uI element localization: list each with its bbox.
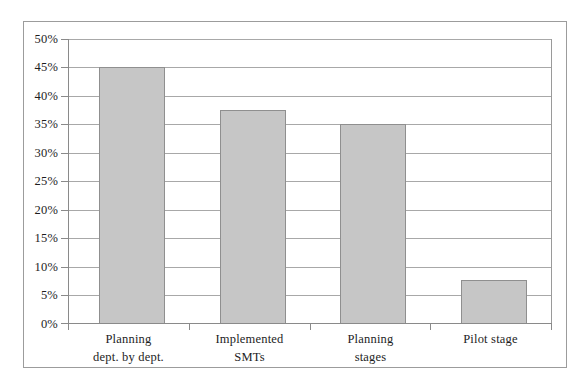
y-axis-tick-mark-0: [61, 323, 68, 324]
category-label-line-2: stages: [310, 348, 431, 366]
y-axis-tick-mark-25: [61, 181, 68, 182]
y-axis-tick-mark-40: [61, 96, 68, 97]
category-label-line-1: Pilot stage: [430, 330, 551, 348]
category-label-line-1: Planning: [310, 330, 431, 348]
x-axis-category-label-implemented-smts: Implemented SMTs: [189, 330, 310, 366]
y-axis-tick-mark-15: [61, 238, 68, 239]
gridline-50: [69, 39, 551, 40]
y-axis-tick-label-15: 15%: [34, 232, 58, 245]
y-axis-tick-mark-45: [61, 67, 68, 68]
y-axis-tick-label-35: 35%: [34, 118, 58, 131]
y-axis-tick-label-30: 30%: [34, 147, 58, 160]
y-axis-tick-label-50: 50%: [34, 33, 58, 46]
bar-chart: 50% 45% 40% 35% 30% 25% 20% 15% 10% 5% 0…: [24, 22, 568, 369]
y-axis-tick-label-40: 40%: [34, 90, 58, 103]
y-axis-tick-mark-35: [61, 124, 68, 125]
y-axis-tick-mark-20: [61, 210, 68, 211]
x-axis-category-label-pilot-stage: Pilot stage: [430, 330, 551, 348]
x-axis-tick-mark-4: [551, 324, 552, 330]
y-axis-tick-label-25: 25%: [34, 175, 58, 188]
figure-frame: 50% 45% 40% 35% 30% 25% 20% 15% 10% 5% 0…: [23, 21, 567, 368]
bar-implemented-smts[interactable]: [220, 110, 286, 324]
y-axis-tick-label-45: 45%: [34, 61, 58, 74]
y-axis-tick-mark-10: [61, 267, 68, 268]
category-label-line-2: dept. by dept.: [68, 348, 189, 366]
y-axis-labels: 50% 45% 40% 35% 30% 25% 20% 15% 10% 5% 0…: [24, 22, 58, 369]
category-label-line-1: Implemented: [189, 330, 310, 348]
category-label-line-1: Planning: [68, 330, 189, 348]
y-axis-tick-label-0: 0%: [41, 318, 58, 331]
x-axis-category-label-planning-stages: Planning stages: [310, 330, 431, 366]
y-axis-tick-mark-50: [61, 39, 68, 40]
y-axis-tick-mark-30: [61, 153, 68, 154]
x-axis-category-label-planning-dept-by-dept: Planning dept. by dept.: [68, 330, 189, 366]
category-label-line-2: SMTs: [189, 348, 310, 366]
bar-planning-stages[interactable]: [340, 124, 406, 324]
y-axis-tick-label-10: 10%: [34, 261, 58, 274]
bar-planning-dept-by-dept[interactable]: [99, 67, 165, 324]
y-axis-tick-mark-5: [61, 295, 68, 296]
y-axis-tick-label-5: 5%: [41, 289, 58, 302]
plot-right-border: [551, 39, 552, 324]
y-axis-tick-label-20: 20%: [34, 204, 58, 217]
bar-pilot-stage[interactable]: [461, 280, 527, 324]
y-axis-line: [68, 39, 69, 324]
